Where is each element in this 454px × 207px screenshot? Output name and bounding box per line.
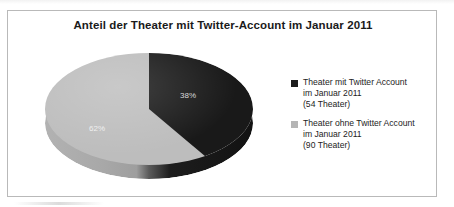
legend-label-line: im Januar 2011: [303, 129, 437, 140]
chart-screenshot: Anteil der Theater mit Twitter-Account i…: [0, 0, 454, 207]
pie-slice-label-without-twitter: 62%: [89, 124, 105, 133]
chart-frame: Anteil der Theater mit Twitter-Account i…: [7, 10, 437, 197]
legend-label-line: (54 Theater): [303, 99, 437, 110]
legend-label-line: Theater mit Twitter Account: [303, 77, 437, 88]
legend-item-with-twitter: Theater mit Twitter Account im Januar 20…: [291, 77, 437, 109]
legend-swatch-icon-light: [291, 121, 298, 128]
legend-label-line: Theater ohne Twitter Account: [303, 118, 437, 129]
legend-label-line: (90 Theater): [303, 140, 437, 151]
pie-top-surface: [45, 53, 253, 165]
legend-swatch-icon-dark: [291, 80, 298, 87]
legend-label-line: im Januar 2011: [303, 88, 437, 99]
pie-slice-label-with-twitter: 38%: [180, 91, 196, 100]
legend-item-label-group: Theater mit Twitter Account im Januar 20…: [291, 77, 437, 109]
scan-artifact-top: [0, 0, 454, 4]
chart-legend: Theater mit Twitter Account im Januar 20…: [291, 77, 437, 160]
pie-chart: 38% 62%: [45, 53, 253, 181]
legend-item-label-group: Theater ohne Twitter Account im Januar 2…: [291, 118, 437, 150]
pie-slice-with-twitter: [45, 53, 253, 165]
legend-item-without-twitter: Theater ohne Twitter Account im Januar 2…: [291, 118, 437, 150]
chart-title: Anteil der Theater mit Twitter-Account i…: [8, 19, 438, 31]
scan-artifact-bottom: [14, 202, 104, 205]
